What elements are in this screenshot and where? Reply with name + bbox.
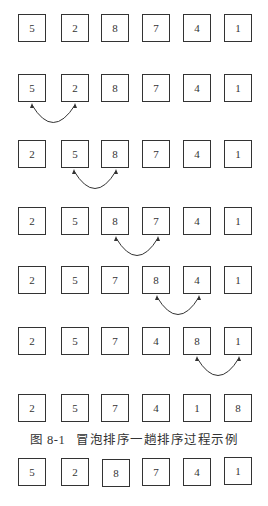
array-cell: 8	[102, 459, 130, 487]
array-cell: 2	[18, 327, 46, 355]
array-cell: 5	[18, 14, 46, 42]
array-cell: 2	[18, 207, 46, 235]
array-row-4: 2 5 8 7 4 1	[0, 207, 268, 235]
array-cell: 2	[61, 14, 89, 42]
array-cell: 8	[101, 207, 129, 235]
figure-caption: 图 8-1 冒泡排序一趟排序过程示例	[0, 429, 268, 448]
swap-arrow-icon	[0, 294, 268, 324]
swap-arrow-icon	[0, 102, 268, 132]
array-cell: 4	[142, 327, 170, 355]
array-cell: 1	[224, 457, 252, 485]
array-cell: 7	[142, 140, 170, 168]
array-cell: 2	[18, 266, 46, 294]
array-cell: 1	[224, 266, 252, 294]
array-cell: 2	[18, 140, 46, 168]
array-cell: 1	[224, 140, 252, 168]
array-cell: 5	[61, 140, 89, 168]
array-cell: 7	[142, 74, 170, 102]
array-cell: 8	[183, 327, 211, 355]
array-cell: 5	[61, 266, 89, 294]
array-cell: 4	[183, 14, 211, 42]
array-cell: 8	[101, 140, 129, 168]
array-row-6: 2 5 7 4 8 1	[0, 327, 268, 355]
array-cell: 8	[101, 14, 129, 42]
array-cell: 1	[224, 327, 252, 355]
array-cell: 7	[142, 207, 170, 235]
array-row-3: 2 5 8 7 4 1	[0, 140, 268, 168]
array-cell: 1	[183, 394, 211, 422]
array-cell: 2	[18, 394, 46, 422]
array-row-2: 5 2 8 7 4 1	[0, 74, 268, 102]
array-cell: 4	[183, 266, 211, 294]
array-cell: 4	[183, 140, 211, 168]
array-cell: 7	[142, 458, 170, 486]
array-cell: 4	[183, 458, 211, 486]
array-row-1: 5 2 8 7 4 1	[0, 14, 268, 42]
array-cell: 7	[101, 394, 129, 422]
array-row-next: 5 2 8 7 4 1	[0, 458, 268, 486]
array-cell: 4	[183, 207, 211, 235]
swap-arrow-icon	[0, 168, 268, 198]
array-cell: 1	[224, 14, 252, 42]
array-cell: 2	[61, 74, 89, 102]
array-row-5: 2 5 7 8 4 1	[0, 266, 268, 294]
array-cell: 1	[224, 207, 252, 235]
array-cell: 5	[61, 207, 89, 235]
swap-arrow-icon	[0, 235, 268, 265]
array-cell: 7	[142, 14, 170, 42]
array-cell: 5	[18, 458, 46, 486]
array-cell: 8	[101, 74, 129, 102]
array-cell: 4	[183, 74, 211, 102]
array-cell: 2	[61, 458, 89, 486]
array-cell: 7	[101, 266, 129, 294]
array-row-7: 2 5 7 4 1 8	[0, 394, 268, 422]
array-cell: 8	[142, 266, 170, 294]
array-cell: 5	[18, 74, 46, 102]
array-cell: 5	[61, 394, 89, 422]
array-cell: 4	[142, 394, 170, 422]
array-cell: 5	[61, 327, 89, 355]
swap-arrow-icon	[0, 355, 268, 385]
array-cell: 8	[224, 394, 252, 422]
array-cell: 1	[224, 74, 252, 102]
array-cell: 7	[101, 327, 129, 355]
